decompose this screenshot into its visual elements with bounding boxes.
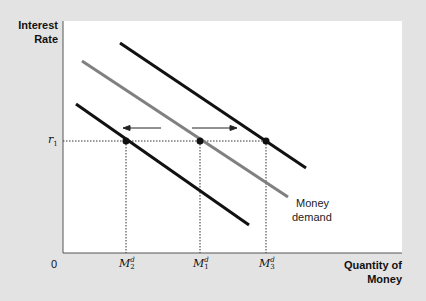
x-axis-label-line2: Money bbox=[330, 272, 402, 286]
money-demand-label: Money demand bbox=[292, 196, 332, 224]
origin-label: 0 bbox=[51, 258, 57, 270]
equilibrium-dot-m1 bbox=[197, 138, 204, 145]
m3-tick-label: Md3 bbox=[259, 257, 275, 271]
y-axis-label-line2: Rate bbox=[4, 32, 58, 46]
m3-main: M bbox=[259, 257, 270, 270]
money-demand-label-line2: demand bbox=[292, 210, 332, 224]
equilibrium-dot-m3 bbox=[263, 138, 270, 145]
equilibrium-dot-m2 bbox=[123, 138, 130, 145]
m1-sub: 1 bbox=[204, 264, 208, 271]
chart-svg bbox=[0, 0, 426, 301]
y-axis-label-line1: Interest bbox=[4, 18, 58, 32]
m2-main: M bbox=[119, 257, 130, 270]
m3-sub: 3 bbox=[270, 264, 274, 271]
x-axis-label: Quantity of Money bbox=[330, 258, 402, 286]
m1-main: M bbox=[193, 257, 204, 270]
m2-tick-label: Md2 bbox=[119, 257, 135, 271]
r1-sub: 1 bbox=[53, 140, 57, 148]
x-axis-label-line1: Quantity of bbox=[330, 258, 402, 272]
money-demand-label-line1: Money bbox=[292, 196, 332, 210]
demand-curve-left bbox=[76, 104, 249, 225]
m2-sub: 2 bbox=[130, 264, 134, 271]
r1-tick-label: r1 bbox=[48, 133, 58, 148]
m1-tick-label: Md1 bbox=[193, 257, 209, 271]
guide-lines bbox=[63, 141, 266, 253]
y-axis-label: Interest Rate bbox=[4, 18, 58, 46]
